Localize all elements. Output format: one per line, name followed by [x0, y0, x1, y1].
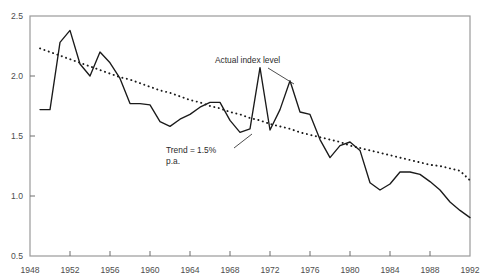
x-tick-label: 1968: [220, 265, 239, 275]
x-tick-label: 1952: [60, 265, 79, 275]
x-tick-label: 1980: [340, 265, 359, 275]
x-tick-label: 1976: [300, 265, 319, 275]
actual-index-level-label: Actual index level: [215, 55, 280, 65]
line-chart: 0.51.01.52.02.5 194819521956196019641968…: [0, 0, 488, 280]
y-tick-label: 0.5: [11, 251, 23, 261]
x-tick-label: 1956: [100, 265, 119, 275]
trend-rate-label: Trend = 1.5%: [166, 145, 217, 155]
x-tick-label: 1948: [20, 265, 39, 275]
y-tick-label: 1.5: [11, 131, 23, 141]
y-tick-label: 1.0: [11, 191, 23, 201]
x-tick-label: 1984: [380, 265, 399, 275]
x-tick-label: 1960: [140, 265, 159, 275]
trend-rate-label: p.a.: [166, 156, 180, 166]
x-tick-label: 1964: [180, 265, 199, 275]
x-tick-label: 1972: [260, 265, 279, 275]
x-tick-label: 1992: [460, 265, 479, 275]
y-tick-label: 2.5: [11, 11, 23, 21]
y-tick-label: 2.0: [11, 71, 23, 81]
chart-root: 0.51.01.52.02.5 194819521956196019641968…: [0, 0, 488, 280]
x-tick-label: 1988: [420, 265, 439, 275]
